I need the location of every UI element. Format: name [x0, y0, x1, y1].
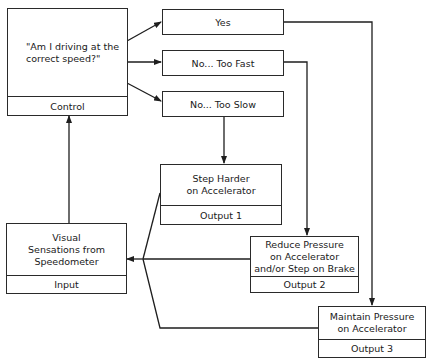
control-label: Control [8, 96, 127, 115]
output3-label: Output 3 [319, 339, 425, 357]
arrow-too-fast-to-output2 [283, 62, 307, 235]
output3-line2: on Accelerator [330, 323, 414, 335]
output2-line1: Reduce Pressure [254, 239, 355, 251]
input-box: Visual Sensations from Speedometer Input [6, 223, 127, 294]
control-question-line2: correct speed?" [26, 53, 119, 65]
decision-yes: Yes [162, 9, 284, 35]
output2-line3: and/or Step on Brake [254, 263, 355, 275]
input-label: Input [7, 275, 126, 293]
control-question-line1: "Am I driving at the [26, 41, 119, 53]
decision-too-fast: No... Too Fast [162, 50, 284, 76]
input-line1: Visual [28, 232, 105, 244]
output1-line2: on Accelerator [186, 185, 255, 197]
output2-label: Output 2 [251, 276, 358, 292]
output3-box: Maintain Pressure on Accelerator Output … [318, 306, 426, 358]
output1-box: Step Harder on Accelerator Output 1 [160, 164, 282, 225]
output1-label: Output 1 [161, 205, 281, 224]
decision-too-slow: No... Too Slow [162, 91, 284, 117]
output2-box: Reduce Pressure on Accelerator and/or St… [250, 236, 359, 293]
output2-action: Reduce Pressure on Accelerator and/or St… [251, 237, 358, 276]
control-question: "Am I driving at the correct speed?" [8, 9, 127, 96]
feedback-output1 [143, 193, 160, 259]
output2-line2: on Accelerator [254, 251, 355, 263]
input-sensation: Visual Sensations from Speedometer [7, 224, 126, 275]
output3-line1: Maintain Pressure [330, 311, 414, 323]
output1-line1: Step Harder [186, 173, 255, 185]
input-line3: Speedometer [28, 256, 105, 268]
output1-action: Step Harder on Accelerator [161, 165, 281, 205]
arrow-control-to-yes [127, 22, 161, 41]
output3-action: Maintain Pressure on Accelerator [319, 307, 425, 339]
arrow-control-to-too-slow [127, 83, 161, 101]
control-box: "Am I driving at the correct speed?" Con… [7, 8, 128, 116]
input-line2: Sensations from [28, 244, 105, 256]
